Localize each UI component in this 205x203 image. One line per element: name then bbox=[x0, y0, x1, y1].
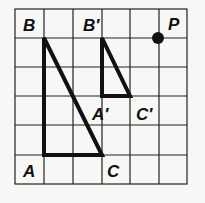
label-p: P bbox=[168, 15, 180, 34]
dilation-diagram: B A C B′ A′ C′ P bbox=[0, 0, 205, 203]
label-c-prime: C′ bbox=[136, 105, 153, 124]
label-a-prime: A′ bbox=[91, 105, 109, 124]
label-b-prime: B′ bbox=[83, 16, 100, 35]
label-a: A bbox=[22, 162, 35, 181]
label-c: C bbox=[107, 162, 120, 181]
label-b: B bbox=[23, 16, 35, 35]
point-p bbox=[152, 32, 164, 44]
